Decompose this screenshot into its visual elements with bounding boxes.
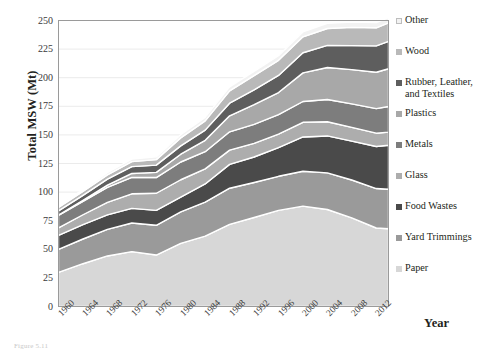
legend-item[interactable]: Food Wastes (396, 200, 498, 231)
legend-item[interactable]: Plastics (396, 107, 498, 138)
legend-item[interactable]: Yard Trimmings (396, 231, 498, 262)
legend-item-label: Glass (405, 169, 428, 181)
legend-item[interactable]: Other (396, 14, 498, 45)
legend-item-label: Paper (405, 262, 428, 274)
chart-legend: OtherWoodRubber, Leather, and TextilesPl… (396, 14, 498, 293)
x-tick-label: 1968 (104, 298, 124, 318)
legend-swatch-icon (396, 18, 402, 24)
x-tick-label: 1972 (129, 298, 149, 318)
x-tick-label: 1992 (251, 298, 271, 318)
legend-item-label: Other (405, 14, 428, 26)
legend-item-label: Metals (405, 138, 433, 150)
x-tick-label: 1988 (227, 298, 247, 318)
figure-caption: Figure 5.11 (14, 342, 48, 350)
legend-item-label: Yard Trimmings (405, 231, 472, 243)
x-tick-label: 1964 (80, 298, 100, 318)
legend-swatch-icon (396, 173, 402, 179)
x-tick-label: 1996 (276, 298, 296, 318)
legend-item[interactable]: Metals (396, 138, 498, 169)
legend-swatch-icon (396, 80, 402, 86)
x-axis-title: Year (424, 316, 449, 331)
legend-item[interactable]: Wood (396, 45, 498, 76)
legend-swatch-icon (396, 204, 402, 210)
x-tick-label: 2004 (324, 298, 344, 318)
legend-item-label: Rubber, Leather, and Textiles (405, 76, 473, 99)
legend-swatch-icon (396, 142, 402, 148)
x-tick-label: 1976 (153, 298, 173, 318)
x-tick-label: 2000 (300, 298, 320, 318)
x-tick-label: 2012 (373, 298, 393, 318)
x-tick-label: 1980 (178, 298, 198, 318)
legend-item[interactable]: Glass (396, 169, 498, 200)
legend-item[interactable]: Rubber, Leather, and Textiles (396, 76, 498, 107)
legend-swatch-icon (396, 266, 402, 272)
legend-swatch-icon (396, 111, 402, 117)
legend-item-label: Plastics (405, 107, 436, 119)
legend-swatch-icon (396, 49, 402, 55)
figure-container: 2502252001751501251007550250 19601964196… (0, 0, 498, 355)
legend-item-label: Food Wastes (405, 200, 457, 212)
x-tick-label: 1960 (56, 298, 76, 318)
legend-item-label: Wood (405, 45, 429, 57)
legend-item[interactable]: Paper (396, 262, 498, 293)
legend-swatch-icon (396, 235, 402, 241)
x-tick-label: 1984 (202, 298, 222, 318)
y-axis-title: Total MSW (Mt) (25, 36, 40, 196)
x-tick-label: 2008 (349, 298, 369, 318)
